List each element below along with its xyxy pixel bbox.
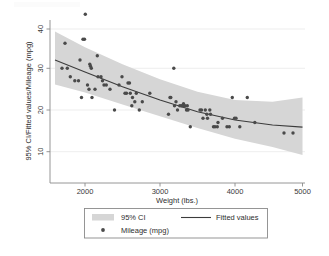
legend-swatch-ci [92,214,114,221]
x-tick-label-5000: 5000 [294,187,311,196]
legend-label-ci: 95% CI [121,213,146,222]
y-tick-label-10: 10 [36,148,45,156]
x-tick-label-2000: 2000 [77,187,94,196]
x-tick-label-4000: 4000 [227,187,244,196]
legend-marker-mileage [101,228,105,232]
y-tick-label-20: 20 [36,106,45,114]
y-axis-ticks: 40 30 20 10 [36,25,50,156]
x-axis-ticks: 2000 3000 4000 5000 [77,183,311,196]
legend-label-mileage: Mileage (mpg) [121,226,169,235]
y-tick-label-40: 40 [36,25,45,33]
x-tick-label-3000: 3000 [152,187,169,196]
y-tick-label-30: 30 [36,64,45,72]
chart-figure: 40 30 20 10 2000 3000 4000 5000 95% CI/F… [0,0,329,256]
x-axis-title: Weight (lbs.) [156,196,198,205]
chart-svg: 40 30 20 10 2000 3000 4000 5000 95% CI/F… [0,0,329,256]
chart-legend: 95% CI Fitted values Mileage (mpg) [85,209,268,239]
y-axis-title: 95% CI/Fitted values/Mileage (mpg) [24,41,33,161]
legend-label-fitted: Fitted values [216,213,259,222]
